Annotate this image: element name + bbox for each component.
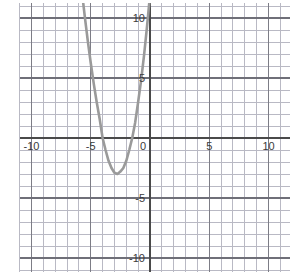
x-tick-label: 5	[206, 140, 212, 152]
coordinate-plane: -10-50510105-5-10	[0, 0, 302, 279]
x-tick-label: -5	[86, 140, 96, 152]
axes	[20, 3, 290, 272]
y-tick-label: 10	[133, 12, 145, 24]
y-tick-label: 5	[139, 72, 145, 84]
x-tick-label-origin: 0	[140, 140, 146, 152]
x-tick-label: 10	[262, 140, 274, 152]
y-tick-label: -5	[135, 192, 145, 204]
graph-container: -10-50510105-5-10	[0, 0, 302, 279]
x-tick-label: -10	[24, 140, 40, 152]
y-tick-label: -10	[129, 252, 145, 264]
